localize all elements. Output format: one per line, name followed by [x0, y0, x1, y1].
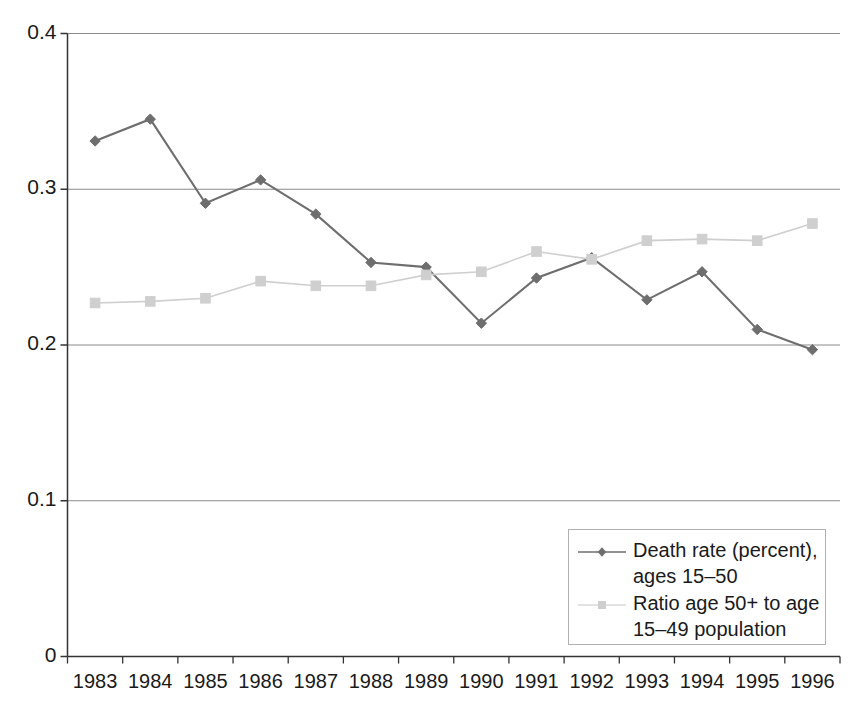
x-tick-label: 1991: [509, 670, 564, 693]
x-tick-label: 1983: [68, 670, 123, 693]
x-axis-ticks: [68, 657, 841, 664]
x-tick-label: 1996: [785, 670, 840, 693]
x-tick-label: 1993: [619, 670, 674, 693]
legend: Death rate (percent), ages 15–50 Ratio a…: [568, 529, 826, 645]
data-series-layer: [90, 114, 818, 355]
x-tick-label: 1984: [123, 670, 178, 693]
legend-label-death-rate: Death rate (percent), ages 15–50: [633, 537, 823, 589]
x-tick-label: 1985: [178, 670, 233, 693]
x-tick-label: 1988: [343, 670, 398, 693]
y-tick-label: 0.3: [27, 175, 56, 199]
line-chart: 0.40.30.20.10 19831984198519861987198819…: [0, 0, 868, 716]
legend-marker-death-rate: [578, 546, 626, 558]
legend-label-ratio-line1: Ratio age 50+ to age: [633, 592, 819, 614]
x-tick-label: 1992: [564, 670, 619, 693]
legend-marker-ratio: [578, 599, 626, 611]
y-axis-ticks: [61, 34, 68, 657]
y-tick-label: 0: [45, 643, 57, 667]
x-tick-label: 1986: [233, 670, 288, 693]
legend-label-death-rate-line2: ages 15–50: [633, 565, 738, 587]
y-tick-label: 0.4: [27, 20, 56, 44]
x-tick-label: 1987: [288, 670, 343, 693]
legend-label-death-rate-line1: Death rate (percent),: [633, 539, 818, 561]
x-tick-label: 1990: [454, 670, 509, 693]
x-tick-label: 1989: [399, 670, 454, 693]
y-tick-label: 0.1: [27, 487, 56, 511]
legend-label-ratio-line2: 15–49 population: [633, 618, 786, 640]
gridlines: [68, 34, 841, 501]
series-death-rate: [90, 114, 818, 355]
x-tick-label: 1995: [730, 670, 785, 693]
y-tick-label: 0.2: [27, 331, 56, 355]
legend-label-ratio: Ratio age 50+ to age 15–49 population: [633, 590, 823, 642]
x-tick-label: 1994: [674, 670, 729, 693]
